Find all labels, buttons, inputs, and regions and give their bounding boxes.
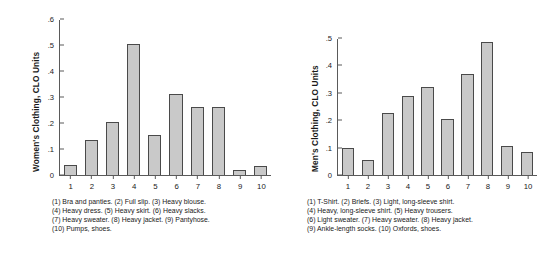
womens-y-tick-mark <box>60 175 64 176</box>
mens-bar-slot <box>378 39 398 175</box>
womens-y-tick-mark <box>60 97 64 98</box>
womens-bar <box>148 135 161 175</box>
mens-x-tick-label: 8 <box>486 179 490 191</box>
mens-x-tick: 8 <box>486 175 490 191</box>
womens-y-tick-mark <box>60 149 64 150</box>
womens-y-tick: .3 <box>48 93 60 102</box>
womens-caption-line: (1) Bra and panties. (2) Full slip. (3) … <box>52 197 210 206</box>
womens-y-tick-mark <box>60 71 64 72</box>
mens-bar <box>521 152 533 175</box>
womens-plot-area: 0.1.2.3.4.5.612345678910 <box>59 20 271 176</box>
womens-y-tick-mark <box>60 19 64 20</box>
mens-caption-line: (9) Ankle-length socks. (10) Oxfords, sh… <box>307 224 473 233</box>
womens-bar-slot <box>102 20 123 175</box>
womens-x-tick: 3 <box>111 175 115 191</box>
womens-y-tick-label: .1 <box>48 145 60 154</box>
mens-y-tick-mark <box>338 120 342 121</box>
womens-bar-slot <box>144 20 165 175</box>
womens-x-tick-label: 9 <box>238 179 242 191</box>
womens-x-tick: 9 <box>238 175 242 191</box>
womens-y-tick: .5 <box>48 41 60 50</box>
mens-bar <box>461 74 473 175</box>
mens-bar-slot <box>457 39 477 175</box>
mens-bar-slot <box>477 39 497 175</box>
mens-bar-slot <box>418 39 438 175</box>
mens-bar-slot <box>517 39 537 175</box>
womens-caption-line: (10) Pumps, shoes. <box>52 224 210 233</box>
womens-y-tick: .4 <box>48 67 60 76</box>
womens-caption-line: (4) Heavy dress. (5) Heavy skirt. (6) He… <box>52 206 210 215</box>
mens-bar-slot <box>358 39 378 175</box>
womens-bar <box>212 107 225 175</box>
mens-bar-slot <box>338 39 358 175</box>
mens-x-tick: 10 <box>524 175 533 191</box>
womens-x-tick-label: 10 <box>257 179 266 191</box>
mens-y-tick-mark <box>338 65 342 66</box>
mens-x-tick: 7 <box>466 175 470 191</box>
mens-x-tick: 3 <box>386 175 390 191</box>
womens-y-tick: .6 <box>48 15 60 24</box>
womens-bar-slot <box>229 20 250 175</box>
womens-x-tick-label: 2 <box>90 179 94 191</box>
womens-y-tick-label: .3 <box>48 93 60 102</box>
womens-bar-slot <box>187 20 208 175</box>
mens-y-tick-label: .5 <box>326 34 338 43</box>
womens-x-tick-label: 1 <box>68 179 72 191</box>
womens-x-tick-label: 7 <box>196 179 200 191</box>
womens-x-tick: 2 <box>90 175 94 191</box>
womens-y-axis-title: Women's Clothing, CLO Units <box>31 52 41 172</box>
mens-y-tick-label: .2 <box>326 116 338 125</box>
mens-caption-line: (1) T-Shirt. (2) Briefs. (3) Light, long… <box>307 197 473 206</box>
womens-x-tick: 10 <box>257 175 266 191</box>
womens-y-tick-mark <box>60 45 64 46</box>
womens-bar-slot <box>208 20 229 175</box>
womens-x-tick-label: 4 <box>132 179 136 191</box>
womens-y-tick-label: 0 <box>50 171 60 180</box>
mens-y-tick-mark <box>338 38 342 39</box>
mens-bar <box>342 148 354 175</box>
mens-y-tick-mark <box>338 92 342 93</box>
mens-caption: (1) T-Shirt. (2) Briefs. (3) Light, long… <box>307 197 473 233</box>
mens-bar <box>382 113 394 175</box>
mens-bar-slot <box>398 39 418 175</box>
clothing-insulation-figure: Women's Clothing, CLO Units 0.1.2.3.4.5.… <box>0 0 560 255</box>
womens-bar <box>64 165 77 175</box>
womens-bar-slot <box>81 20 102 175</box>
womens-bar <box>106 122 119 175</box>
womens-caption: (1) Bra and panties. (2) Full slip. (3) … <box>52 197 210 233</box>
mens-y-tick-mark <box>338 175 342 176</box>
mens-y-tick: .1 <box>326 143 338 152</box>
mens-bar <box>481 42 493 175</box>
mens-x-tick-label: 9 <box>506 179 510 191</box>
mens-caption-line: (6) Light sweater. (7) Heavy sweater. (8… <box>307 215 473 224</box>
mens-x-tick: 1 <box>346 175 350 191</box>
mens-x-tick-label: 7 <box>466 179 470 191</box>
mens-x-tick: 5 <box>426 175 430 191</box>
mens-y-tick-label: .1 <box>326 143 338 152</box>
mens-x-tick-label: 3 <box>386 179 390 191</box>
mens-y-tick: .4 <box>326 61 338 70</box>
womens-y-tick-label: .5 <box>48 41 60 50</box>
womens-x-tick: 6 <box>174 175 178 191</box>
mens-y-tick: .3 <box>326 88 338 97</box>
womens-bar <box>169 94 182 175</box>
mens-x-tick: 6 <box>446 175 450 191</box>
womens-x-tick-label: 8 <box>217 179 221 191</box>
mens-caption-line: (4) Heavy, long-sleeve shirt. (5) Heavy … <box>307 206 473 215</box>
womens-y-tick-label: .2 <box>48 119 60 128</box>
mens-y-tick: .5 <box>326 34 338 43</box>
mens-x-tick-label: 1 <box>346 179 350 191</box>
womens-y-tick-label: .6 <box>48 15 60 24</box>
mens-x-tick: 9 <box>506 175 510 191</box>
mens-bar <box>441 119 453 175</box>
womens-bar-slot <box>165 20 186 175</box>
mens-bar-group <box>338 39 537 175</box>
womens-bar <box>127 44 140 175</box>
womens-x-tick: 7 <box>196 175 200 191</box>
mens-x-tick-label: 6 <box>446 179 450 191</box>
mens-x-tick: 2 <box>366 175 370 191</box>
mens-clothing-panel: Men's Clothing, CLO Units 0.1.2.3.4.5123… <box>280 0 560 255</box>
mens-y-tick-label: .3 <box>326 88 338 97</box>
mens-y-tick-label: .4 <box>326 61 338 70</box>
womens-y-tick: .2 <box>48 119 60 128</box>
